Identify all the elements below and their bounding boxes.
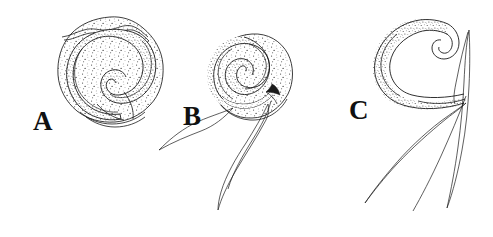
larvae-illustration — [0, 0, 493, 237]
panel-label-c: C — [349, 97, 369, 124]
panel-label-b: B — [183, 103, 201, 130]
figure-canvas: A B C — [0, 0, 493, 237]
panel-label-a: A — [33, 108, 53, 135]
